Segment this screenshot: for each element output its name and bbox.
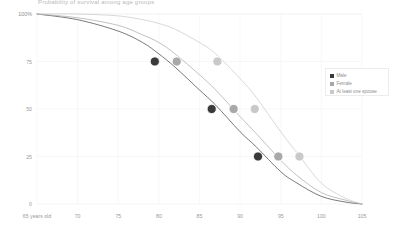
legend-item-female[interactable]: Female <box>330 80 385 87</box>
data-point-marker[interactable] <box>274 152 283 161</box>
y-axis-tick-label: 50 <box>26 106 32 112</box>
x-axis-tick-label: 95 <box>278 213 284 219</box>
legend-label-at-least-one-spouse: At least one spouse <box>337 89 377 94</box>
data-point-marker[interactable] <box>207 104 216 113</box>
x-axis-tick-label: 65 years old <box>23 213 51 219</box>
data-point-marker[interactable] <box>229 104 238 113</box>
chart-legend: Male Female At least one spouse <box>325 68 389 96</box>
legend-label-male: Male <box>337 73 347 78</box>
x-axis-tick-label: 70 <box>75 213 81 219</box>
plot-area: 0255075100% 65 years old7075808590951001… <box>0 0 395 230</box>
data-point-marker[interactable] <box>295 152 304 161</box>
data-point-marker[interactable] <box>253 152 262 161</box>
x-axis-tick-label: 105 <box>358 213 367 219</box>
survival-probability-chart: Probability of survival among age groups… <box>0 0 395 230</box>
data-point-marker[interactable] <box>150 57 159 66</box>
y-axis-labels: 0255075100% <box>18 11 32 207</box>
legend-swatch-male <box>330 74 334 78</box>
x-axis-tick-label: 75 <box>115 213 121 219</box>
y-axis-tick-label: 0 <box>29 201 32 207</box>
legend-swatch-female <box>330 82 334 86</box>
data-point-marker[interactable] <box>213 57 222 66</box>
data-point-marker[interactable] <box>250 104 259 113</box>
y-axis-tick-label: 100% <box>18 11 32 17</box>
legend-swatch-at-least-one-spouse <box>330 90 334 94</box>
x-axis-tick-label: 80 <box>156 213 162 219</box>
x-axis-labels: 65 years old707580859095100105 <box>23 213 367 219</box>
x-axis-tick-label: 100 <box>317 213 326 219</box>
data-point-marker[interactable] <box>172 57 181 66</box>
x-axis-tick-label: 90 <box>237 213 243 219</box>
x-axis-tick-label: 85 <box>197 213 203 219</box>
y-axis-tick-label: 75 <box>26 59 32 65</box>
legend-item-at-least-one-spouse[interactable]: At least one spouse <box>330 88 385 95</box>
legend-label-female: Female <box>337 81 352 86</box>
legend-item-male[interactable]: Male <box>330 72 385 79</box>
y-axis-tick-label: 25 <box>26 154 32 160</box>
